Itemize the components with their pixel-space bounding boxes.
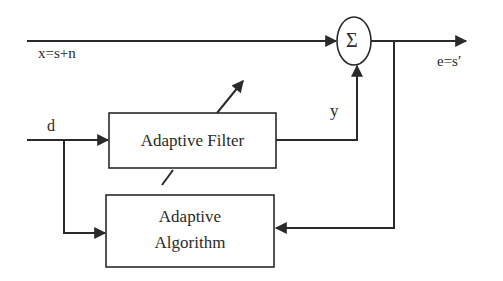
- error-output-label: e=s′: [437, 54, 461, 69]
- adaptive-algorithm-label: Adaptive Algorithm: [106, 206, 274, 254]
- filter-output-label: y: [330, 102, 339, 119]
- adaptive-algorithm-line2: Algorithm: [106, 232, 274, 253]
- adaptive-filter-label: Adaptive Filter: [109, 130, 276, 151]
- summer-symbol: Σ: [346, 30, 358, 50]
- primary-input-label: x=s+n: [38, 46, 76, 61]
- reference-branch-line: [64, 140, 105, 233]
- filter-output-line: [276, 66, 357, 140]
- weight-adjust-arrow-lower: [162, 170, 173, 185]
- weight-adjust-arrow-upper: [217, 81, 243, 113]
- reference-input-label: d: [47, 118, 55, 134]
- feedback-line: [276, 41, 394, 228]
- adaptive-algorithm-line1: Adaptive: [106, 206, 274, 227]
